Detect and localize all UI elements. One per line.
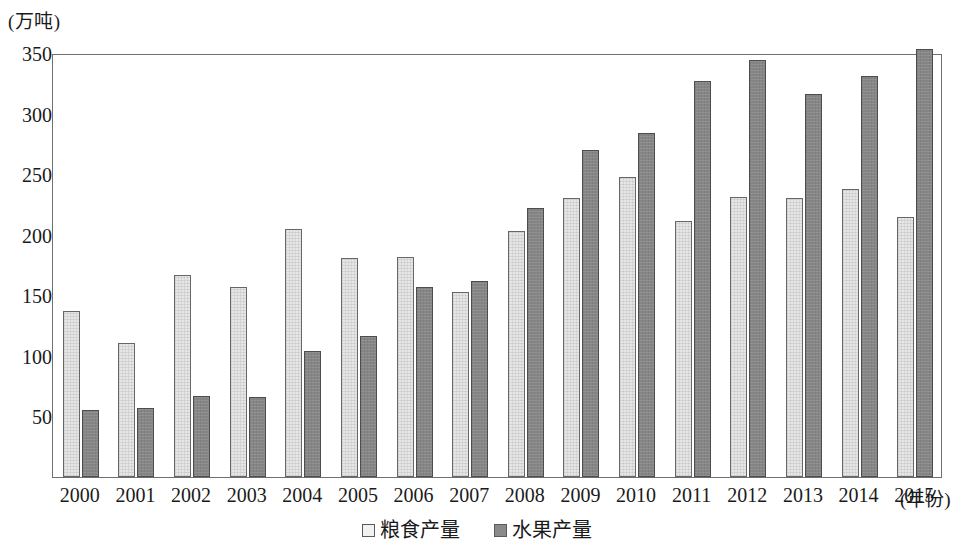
bar-粮食产量-2013 bbox=[786, 198, 803, 477]
chart-legend: 粮食产量水果产量 bbox=[0, 520, 954, 540]
plot-area bbox=[52, 54, 942, 478]
bars-layer bbox=[53, 55, 941, 477]
x-axis-tick-label: 2004 bbox=[282, 484, 322, 507]
bar-水果产量-2004 bbox=[304, 351, 321, 477]
x-axis-tick-label: 2012 bbox=[727, 484, 767, 507]
legend-item: 粮食产量 bbox=[362, 520, 460, 540]
bar-水果产量-2000 bbox=[82, 410, 99, 477]
x-axis-tick-label: 2000 bbox=[60, 484, 100, 507]
x-axis-tick-label: 2005 bbox=[338, 484, 378, 507]
bar-水果产量-2014 bbox=[861, 76, 878, 477]
x-axis-tick-label: 2014 bbox=[839, 484, 879, 507]
bar-粮食产量-2003 bbox=[230, 287, 247, 477]
bar-粮食产量-2002 bbox=[174, 275, 191, 477]
y-axis-tick-label: 50 bbox=[6, 406, 52, 429]
bar-水果产量-2008 bbox=[527, 208, 544, 477]
x-axis-tick-label: 2007 bbox=[449, 484, 489, 507]
y-axis-tick-label: 250 bbox=[6, 164, 52, 187]
bar-水果产量-2005 bbox=[360, 336, 377, 477]
x-axis-title: (年份) bbox=[900, 484, 951, 511]
x-axis-tick-label: 2002 bbox=[171, 484, 211, 507]
y-axis-tick-label: 150 bbox=[6, 285, 52, 308]
legend-item: 水果产量 bbox=[494, 520, 592, 540]
x-axis-tick-label: 2003 bbox=[227, 484, 267, 507]
bar-水果产量-2006 bbox=[416, 287, 433, 477]
bar-水果产量-2007 bbox=[471, 281, 488, 477]
bar-粮食产量-2006 bbox=[397, 257, 414, 477]
bar-粮食产量-2008 bbox=[508, 231, 525, 477]
bar-chart: (万吨) 50100150200250300350 20002001200220… bbox=[0, 0, 954, 552]
bar-粮食产量-2009 bbox=[563, 198, 580, 477]
legend-label: 水果产量 bbox=[512, 520, 592, 540]
bar-粮食产量-2011 bbox=[675, 221, 692, 477]
bar-水果产量-2010 bbox=[638, 133, 655, 477]
x-axis-tick-label: 2001 bbox=[115, 484, 155, 507]
bar-水果产量-2013 bbox=[805, 94, 822, 477]
bar-粮食产量-2015 bbox=[897, 217, 914, 477]
bar-粮食产量-2001 bbox=[118, 343, 135, 477]
x-axis-tick-label: 2013 bbox=[783, 484, 823, 507]
legend-label: 粮食产量 bbox=[380, 520, 460, 540]
y-axis-tick-label: 350 bbox=[6, 43, 52, 66]
x-axis-tick-label: 2006 bbox=[394, 484, 434, 507]
bar-水果产量-2015 bbox=[916, 49, 933, 477]
bar-水果产量-2002 bbox=[193, 396, 210, 477]
y-axis-tick-layer: 50100150200250300350 bbox=[0, 0, 52, 552]
bar-粮食产量-2010 bbox=[619, 177, 636, 477]
bar-粮食产量-2007 bbox=[452, 292, 469, 477]
x-axis-tick-label: 2011 bbox=[672, 484, 711, 507]
x-axis-tick-label: 2010 bbox=[616, 484, 656, 507]
bar-水果产量-2009 bbox=[582, 150, 599, 477]
y-axis-tick-label: 300 bbox=[6, 103, 52, 126]
bar-水果产量-2012 bbox=[749, 60, 766, 477]
x-axis-tick-label: 2009 bbox=[560, 484, 600, 507]
legend-swatch-light bbox=[362, 524, 375, 537]
bar-粮食产量-2004 bbox=[285, 229, 302, 477]
bar-水果产量-2011 bbox=[694, 81, 711, 477]
x-axis-tick-label: 2008 bbox=[505, 484, 545, 507]
bar-粮食产量-2000 bbox=[63, 311, 80, 477]
bar-水果产量-2001 bbox=[137, 408, 154, 477]
bar-粮食产量-2005 bbox=[341, 258, 358, 477]
y-axis-tick-label: 200 bbox=[6, 224, 52, 247]
bar-粮食产量-2014 bbox=[842, 189, 859, 477]
y-axis-tick-label: 100 bbox=[6, 345, 52, 368]
bar-水果产量-2003 bbox=[249, 397, 266, 477]
bar-粮食产量-2012 bbox=[730, 197, 747, 477]
legend-swatch-dark bbox=[494, 524, 507, 537]
